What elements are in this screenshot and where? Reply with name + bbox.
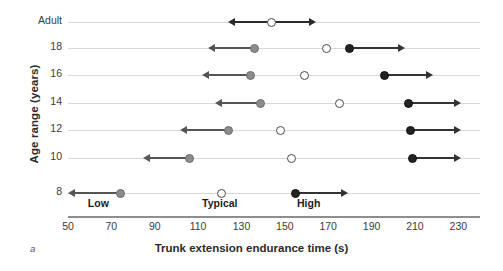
data-point-gray[interactable]: [246, 71, 255, 80]
data-point-open[interactable]: [267, 18, 276, 27]
x-axis-tick-label: 170: [319, 220, 337, 232]
x-axis-tick-label: 90: [149, 220, 161, 232]
arrow-head-right-icon: [398, 44, 405, 52]
arrow-head-left-icon: [68, 189, 75, 197]
panel-letter: a: [30, 243, 35, 254]
y-axis-tick-label: 14: [50, 95, 62, 107]
y-axis-tick-label: 16: [50, 67, 62, 79]
chart-row-adult: Adult: [68, 22, 480, 23]
data-point-open[interactable]: [335, 99, 344, 108]
x-axis-tick-label: 210: [406, 220, 424, 232]
x-axis-tick-label: 230: [450, 220, 468, 232]
arrow-head-left-icon: [180, 126, 187, 134]
right-arrow: [413, 157, 454, 159]
data-point-gray[interactable]: [250, 44, 259, 53]
left-arrow: [187, 129, 228, 131]
band-label-high: High: [297, 197, 320, 209]
right-arrow: [272, 21, 309, 23]
data-point-open[interactable]: [276, 126, 285, 135]
data-point-black[interactable]: [404, 99, 413, 108]
left-arrow: [209, 74, 250, 76]
data-point-gray[interactable]: [185, 154, 194, 163]
data-point-black[interactable]: [406, 126, 415, 135]
arrow-head-right-icon: [426, 71, 433, 79]
left-arrow: [150, 157, 189, 159]
plot-area: Adult18161412108: [68, 0, 480, 200]
chart-container: Age range (years) Adult18161412108 LowTy…: [0, 0, 503, 271]
y-axis-tick-label: Adult: [38, 14, 62, 26]
right-arrow: [385, 74, 426, 76]
arrow-head-right-icon: [454, 126, 461, 134]
band-label-typical: Typical: [202, 197, 237, 209]
arrow-head-left-icon: [215, 99, 222, 107]
chart-row-8: 8: [68, 193, 480, 194]
gridline: [68, 193, 480, 194]
left-arrow: [222, 102, 261, 104]
arrow-head-left-icon: [228, 18, 235, 26]
data-point-gray[interactable]: [256, 99, 265, 108]
right-arrow: [350, 47, 398, 49]
chart-row-16: 16: [68, 75, 480, 76]
data-point-open[interactable]: [322, 44, 331, 53]
data-point-gray[interactable]: [116, 189, 125, 198]
y-axis-tick-label: 10: [50, 150, 62, 162]
arrow-head-right-icon: [454, 154, 461, 162]
arrow-head-left-icon: [143, 154, 150, 162]
chart-row-10: 10: [68, 158, 480, 159]
data-point-open[interactable]: [287, 154, 296, 163]
chart-row-12: 12: [68, 130, 480, 131]
left-arrow: [235, 21, 272, 23]
arrow-head-right-icon: [309, 18, 316, 26]
x-axis-tick-label: 110: [190, 220, 207, 232]
gridline: [68, 48, 480, 49]
right-arrow: [411, 129, 454, 131]
y-axis-tick-label: 18: [50, 40, 62, 52]
y-axis-title: Age range (years): [28, 34, 40, 194]
y-axis-tick-label: 8: [56, 185, 62, 197]
right-arrow: [408, 102, 454, 104]
left-arrow: [215, 47, 254, 49]
right-arrow: [296, 192, 342, 194]
x-axis-tick-label: 130: [233, 220, 251, 232]
x-axis-line: [68, 216, 480, 218]
data-point-gray[interactable]: [224, 126, 233, 135]
arrow-head-left-icon: [202, 71, 209, 79]
x-axis-tick-label: 50: [62, 220, 74, 232]
data-point-open[interactable]: [300, 71, 309, 80]
x-axis-title: Trunk extension endurance time (s): [0, 242, 503, 254]
data-point-black[interactable]: [408, 154, 417, 163]
chart-row-18: 18: [68, 48, 480, 49]
band-label-low: Low: [88, 197, 109, 209]
y-axis-tick-label: 12: [50, 122, 62, 134]
data-point-black[interactable]: [345, 44, 354, 53]
chart-row-14: 14: [68, 103, 480, 104]
x-axis-tick-label: 70: [106, 220, 118, 232]
x-axis-tick-label: 150: [276, 220, 294, 232]
arrow-head-left-icon: [208, 44, 215, 52]
x-axis-tick-label: 190: [363, 220, 381, 232]
data-point-black[interactable]: [380, 71, 389, 80]
left-arrow: [75, 192, 121, 194]
arrow-head-right-icon: [454, 99, 461, 107]
arrow-head-right-icon: [341, 189, 348, 197]
